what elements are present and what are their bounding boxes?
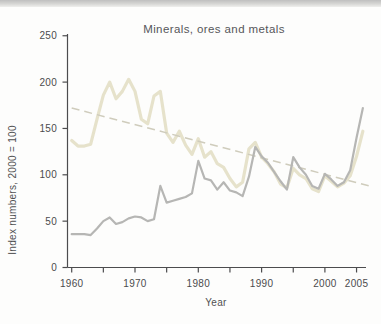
y-tick-label: 50 [45, 216, 57, 227]
x-tick-label: 2005 [345, 278, 369, 289]
x-tick-label: 1980 [187, 278, 211, 289]
x-axis-ticks: 196019701980199020002005 [60, 268, 368, 290]
series-gray-line [72, 108, 363, 235]
y-tick-label: 150 [39, 123, 57, 134]
y-axis-label: Index numbers, 2000 = 100 [7, 125, 18, 255]
y-tick-label: 200 [39, 77, 57, 88]
chart-canvas: Minerals, ores and metals Index numbers,… [0, 0, 381, 324]
x-tick-label: 1960 [60, 278, 84, 289]
page: Minerals, ores and metals Index numbers,… [0, 0, 381, 324]
x-tick-label: 1970 [123, 278, 147, 289]
plot-area [72, 79, 370, 235]
y-tick-label: 250 [39, 30, 57, 41]
x-axis-label: Year [205, 297, 227, 308]
series-tan-line [72, 79, 363, 191]
y-tick-label: 0 [51, 262, 57, 273]
x-tick-label: 2000 [313, 278, 337, 289]
x-tick-label: 1990 [250, 278, 274, 289]
y-axis-ticks: 050100150200250 [39, 30, 67, 273]
chart-title: Minerals, ores and metals [143, 23, 285, 35]
y-tick-label: 100 [39, 169, 57, 180]
